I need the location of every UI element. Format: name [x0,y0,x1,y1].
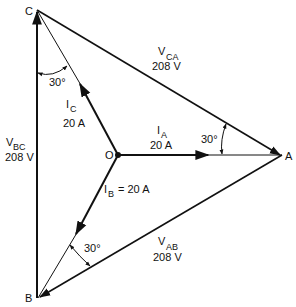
angle-arc-a [222,124,227,154]
svg-text:20 A: 20 A [150,139,173,151]
label-v-bc: V BC 208 V [5,136,34,163]
angle-label-b: 30° [84,242,101,254]
svg-text:V: V [158,45,166,57]
label-i-b: I B = 20 A [104,183,150,199]
svg-text:I: I [157,124,160,136]
origin-point [115,152,121,158]
point-label-o: O [105,149,114,161]
svg-text:208 V: 208 V [5,151,34,163]
phasor-diagram: C B A O V CA 208 V V BC 208 V V AB 208 V… [0,0,296,307]
point-label-b: B [25,292,32,304]
angle-label-a: 30° [201,133,218,145]
svg-text:I: I [66,98,69,110]
current-vector-b [38,155,118,298]
label-i-a: I A 20 A [150,124,173,151]
svg-text:V: V [158,235,166,247]
point-label-c: C [25,5,33,17]
voltage-vector-ab [40,155,282,297]
svg-text:208 V: 208 V [153,251,182,263]
label-v-ab: V AB 208 V [153,235,182,263]
svg-text:C: C [70,104,77,114]
label-v-ca: V CA 208 V [152,45,181,72]
angle-arc-c [38,66,67,74]
svg-text:B: B [108,189,114,199]
angle-label-c: 30° [49,76,66,88]
label-i-c: I C 20 A [63,98,86,129]
svg-text:= 20 A: = 20 A [118,183,150,195]
point-label-a: A [285,150,293,162]
svg-text:I: I [104,183,107,195]
svg-text:20 A: 20 A [63,117,86,129]
svg-text:208 V: 208 V [152,60,181,72]
